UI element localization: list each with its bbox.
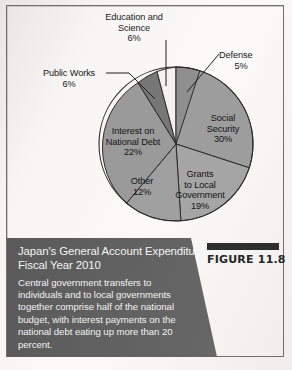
pie-label-defense: Defense 5%	[219, 50, 281, 71]
pie-value-education: 6%	[127, 33, 140, 43]
pie-value-social-security: 30%	[214, 134, 232, 144]
caption-text-block: Japan's General Account Expenditures, Fi…	[18, 245, 214, 351]
pie-value-other: 12%	[133, 187, 151, 197]
pie-label-public-works-line1: Public Works	[43, 68, 95, 78]
pie-label-grants-line2: to Local	[184, 180, 215, 190]
pie-label-social-line1: Social	[211, 113, 235, 123]
pie-label-education-line1: Education and	[105, 12, 162, 22]
figure-tag-block: FIGURE 11.8	[207, 238, 283, 266]
pie-label-interest-line1: Interest on	[112, 126, 154, 136]
pie-label-social-security: Social Security 30%	[195, 113, 251, 145]
pie-label-grants-line1: Grants	[187, 169, 214, 179]
pie-label-education-line2: Science	[118, 23, 150, 33]
pie-label-public-works: Public Works 6%	[29, 68, 109, 89]
pie-chart: Education and Science 6% Defense 5% Publ…	[7, 6, 283, 238]
pie-label-education-and-science: Education and Science 6%	[91, 12, 177, 44]
pie-label-defense-line1: Defense	[219, 50, 253, 60]
figure-caption-body: Central government transfers to individu…	[18, 277, 184, 351]
figure-tag-rule	[207, 243, 279, 250]
pie-value-grants: 19%	[191, 201, 209, 211]
figure-page: Education and Science 6% Defense 5% Publ…	[0, 0, 292, 370]
pie-label-social-line2: Security	[207, 124, 239, 134]
pie-label-grants-line3: Government	[175, 190, 225, 200]
pie-label-interest-line2: National Debt	[106, 137, 160, 147]
pie-label-other: Other 12%	[119, 176, 165, 197]
pie-value-defense: 5%	[219, 61, 263, 72]
pie-label-other-line1: Other	[131, 176, 153, 186]
pie-label-grants-to-local-government: Grants to Local Government 19%	[163, 169, 237, 211]
pie-value-public-works: 6%	[62, 79, 75, 89]
pie-value-interest: 22%	[124, 147, 142, 157]
figure-caption-title: Japan's General Account Expenditures, Fi…	[18, 245, 214, 273]
pie-label-interest-on-national-debt: Interest on National Debt 22%	[91, 126, 175, 158]
figure-number-label: FIGURE 11.8	[207, 253, 283, 266]
